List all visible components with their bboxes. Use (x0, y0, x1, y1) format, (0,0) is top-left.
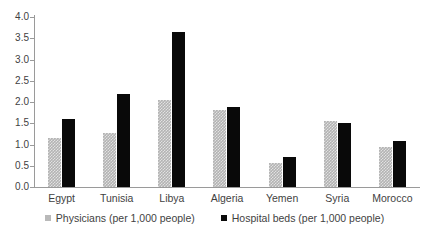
bar-physicians (324, 121, 337, 187)
legend-swatch-beds-icon (221, 215, 227, 221)
bar-physicians (103, 133, 116, 187)
bar-hospital-beds (62, 119, 75, 187)
category-label: Egypt (34, 191, 89, 205)
bar-hospital-beds (227, 107, 240, 187)
y-axis-tick-label: 3.0 (1, 55, 29, 65)
y-axis-tick-label: 3.5 (1, 33, 29, 43)
legend-label: Physicians (per 1,000 people) (56, 212, 195, 224)
category-label: Morocco (365, 191, 420, 205)
bar-physicians (213, 110, 226, 187)
legend-swatch-physicians-icon (45, 215, 51, 221)
bar-hospital-beds (172, 32, 185, 187)
bar-group (199, 17, 254, 187)
y-axis-tick-label: 0.0 (1, 182, 29, 192)
bar-physicians (269, 163, 282, 187)
y-axis-tick-label: 2.0 (1, 97, 29, 107)
y-axis-labels: 4.03.53.02.52.01.51.00.50.0 (0, 0, 29, 238)
bar-group (34, 17, 89, 187)
bar-group (255, 17, 310, 187)
bar-group (365, 17, 420, 187)
bar-hospital-beds (117, 94, 130, 187)
y-axis-tick-label: 2.5 (1, 76, 29, 86)
bar-hospital-beds (283, 157, 296, 187)
plot-area (34, 17, 420, 187)
bar-physicians (48, 138, 61, 187)
bar-group (310, 17, 365, 187)
legend-item[interactable]: Hospital beds (per 1,000 people) (221, 212, 384, 224)
bar-group (144, 17, 199, 187)
bar-physicians (379, 147, 392, 187)
category-label: Syria (310, 191, 365, 205)
bar-physicians (158, 100, 171, 187)
legend-item[interactable]: Physicians (per 1,000 people) (45, 212, 195, 224)
y-axis-tick-label: 1.0 (1, 140, 29, 150)
bar-hospital-beds (338, 123, 351, 187)
category-label: Libya (144, 191, 199, 205)
y-axis-tick-label: 1.5 (1, 118, 29, 128)
bar-chart: 4.03.53.02.52.01.51.00.50.0 EgyptTunisia… (0, 0, 429, 238)
legend-label: Hospital beds (per 1,000 people) (232, 212, 384, 224)
x-axis-line (34, 187, 420, 188)
category-label: Yemen (255, 191, 310, 205)
y-axis-tick-label: 4.0 (1, 12, 29, 22)
category-label: Algeria (199, 191, 254, 205)
y-axis-tick-label: 0.5 (1, 161, 29, 171)
chart-legend: Physicians (per 1,000 people)Hospital be… (0, 212, 429, 224)
bar-hospital-beds (393, 141, 406, 187)
bar-group (89, 17, 144, 187)
category-label: Tunisia (89, 191, 144, 205)
